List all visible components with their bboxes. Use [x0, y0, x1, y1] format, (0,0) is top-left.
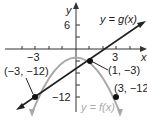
y-axis-arrow-icon: [73, 2, 79, 9]
f-label: y = f(x): [80, 101, 115, 113]
point-label-neg3-neg12: (−3, −12): [4, 65, 49, 77]
tick-label-neg3: −3: [27, 51, 40, 63]
point-label-1-neg3: (1, −3): [108, 64, 140, 76]
g-arrow-right-icon: [137, 21, 146, 28]
function-graph: y x 6 −12 −3 3 y = g(x) y = f(x) (−3, −1…: [0, 0, 147, 126]
y-ticks: [76, 25, 80, 97]
point-label-3-neg12: (3, −12: [114, 82, 147, 94]
y-axis-label: y: [65, 4, 73, 16]
point-3-neg12: [113, 94, 119, 100]
x-axis-label: x: [140, 51, 147, 63]
f-arrow-left-icon: [29, 109, 35, 117]
f-arrow-right-icon: [117, 109, 123, 117]
point-1-neg3: [87, 58, 93, 64]
tick-label-6: 6: [64, 19, 70, 31]
leader-neg3: [26, 78, 33, 94]
tick-label-neg12: −12: [52, 91, 71, 103]
point-neg3-neg12: [32, 94, 38, 100]
g-label: y = g(x): [99, 13, 137, 25]
tick-label-3: 3: [112, 51, 118, 63]
